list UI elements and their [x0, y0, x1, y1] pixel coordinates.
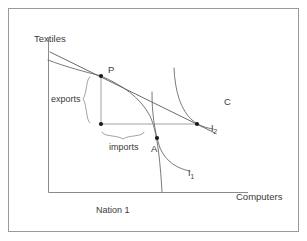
exports-label: exports — [51, 94, 81, 104]
point-marker-p — [99, 74, 103, 78]
point-label-p: P — [108, 64, 114, 75]
figure-footer-label: Nation 1 — [96, 205, 130, 215]
point-label-c: C — [224, 96, 231, 107]
curve-label-i1-subscript: 1 — [191, 173, 195, 180]
point-marker-vertex — [99, 122, 103, 126]
point-marker-a — [155, 136, 159, 140]
y-axis-title: Textiles — [34, 33, 66, 44]
point-label-a: A — [151, 143, 158, 154]
imports-label: imports — [109, 142, 139, 152]
curve-label-i2-subscript: 2 — [214, 128, 218, 135]
point-marker-c — [195, 122, 199, 126]
trade-diagram-figure: Textiles Computers P A C exports imports… — [0, 0, 307, 241]
x-axis-title: Computers — [236, 191, 283, 202]
diagram-canvas: Textiles Computers P A C exports imports… — [0, 0, 307, 241]
